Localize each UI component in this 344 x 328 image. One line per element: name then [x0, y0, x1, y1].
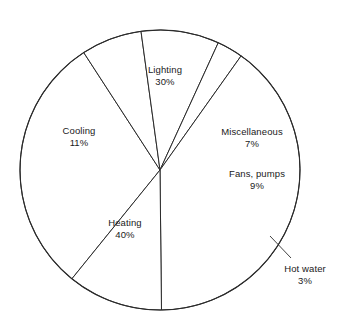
pie-label-value: 7%: [221, 138, 283, 150]
pie-label-name: Miscellaneous: [221, 126, 283, 138]
pie-label-heating: Heating40%: [108, 217, 141, 241]
pie-label-name: Hot water: [284, 263, 326, 275]
pie-label-fans-pumps: Fans, pumps9%: [229, 168, 285, 192]
pie-label-name: Fans, pumps: [229, 168, 285, 180]
pie-chart-figure: Lighting30%Miscellaneous7%Fans, pumps9%H…: [0, 0, 344, 328]
pie-label-value: 11%: [63, 137, 96, 149]
pie-label-hot-water: Hot water3%: [284, 263, 326, 287]
pie-label-value: 30%: [148, 76, 182, 88]
pie-label-name: Lighting: [148, 64, 182, 76]
pie-label-lighting: Lighting30%: [148, 64, 182, 88]
pie-label-value: 9%: [229, 180, 285, 192]
pie-label-miscellaneous: Miscellaneous7%: [221, 126, 283, 150]
pie-label-name: Cooling: [63, 125, 96, 137]
pie-label-cooling: Cooling11%: [63, 125, 96, 149]
pie-label-value: 3%: [284, 275, 326, 287]
pie-label-name: Heating: [108, 217, 141, 229]
pie-label-value: 40%: [108, 229, 141, 241]
